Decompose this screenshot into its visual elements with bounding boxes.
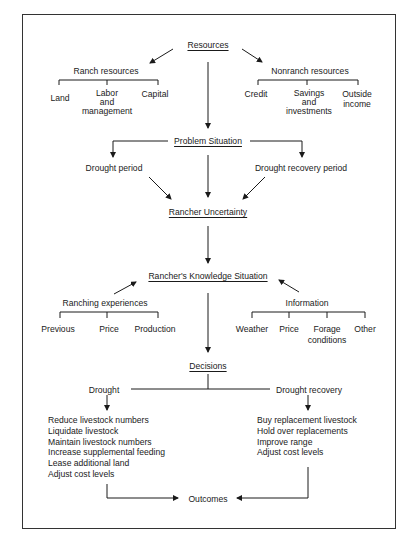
drought-action: Lease additional land	[48, 458, 165, 469]
node-resources: Resources	[187, 40, 228, 50]
recovery-action: Buy replacement livestock	[257, 415, 357, 426]
arrow-to-nonranch-resources	[242, 49, 262, 62]
recovery-action: Improve range	[257, 437, 357, 448]
nonranch-item-savings: Savings and investments	[286, 89, 332, 115]
info-item-price: Price	[279, 324, 299, 334]
node-knowledge-situation: Rancher's Knowledge Situation	[148, 271, 267, 281]
drought-action-list: Reduce livestock numbers Liquidate lives…	[48, 415, 165, 480]
node-rancher-uncertainty: Rancher Uncertainty	[169, 207, 247, 217]
info-item-weather: Weather	[236, 324, 268, 334]
nonranch-item-credit: Credit	[245, 89, 268, 99]
drought-action: Adjust cost levels	[48, 469, 165, 480]
info-item-other: Other	[354, 324, 376, 334]
arrow-to-ranch-resources	[150, 49, 173, 63]
ranch-item-capital: Capital	[142, 89, 169, 99]
drought-action: Increase supplemental feeding	[48, 447, 165, 458]
info-item-forage-conditions: Forage conditions	[308, 324, 347, 345]
node-drought-recovery-period: Drought recovery period	[255, 163, 347, 173]
node-ranching-experiences: Ranching experiences	[62, 298, 147, 308]
recovery-action-list: Buy replacement livestock Hold over repl…	[257, 415, 357, 458]
drought-action: Reduce livestock numbers	[48, 415, 165, 426]
recovery-action: Hold over replacements	[257, 426, 357, 437]
experience-item-previous: Previous	[41, 324, 74, 334]
experience-item-price: Price	[99, 324, 119, 334]
nonranch-item-outside-income: Outside income	[342, 89, 372, 109]
drought-action: Maintain livestock numbers	[48, 437, 165, 448]
node-nonranch-resources: Nonranch resources	[271, 66, 348, 76]
node-drought: Drought	[89, 385, 120, 395]
node-decisions: Decisions	[189, 361, 226, 371]
diagram-canvas: Resources Ranch resources Land Labor and…	[0, 0, 410, 549]
node-information: Information	[286, 298, 329, 308]
ranch-item-land: Land	[50, 93, 69, 103]
drought-action: Liquidate livestock	[48, 426, 165, 437]
experience-item-production: Production	[134, 324, 175, 334]
node-drought-period: Drought period	[86, 163, 143, 173]
node-problem-situation: Problem Situation	[174, 136, 242, 146]
node-drought-recovery: Drought recovery	[276, 385, 342, 395]
recovery-action: Adjust cost levels	[257, 447, 357, 458]
ranch-item-labor: Labor and management	[82, 89, 132, 115]
node-outcomes: Outcomes	[188, 494, 227, 504]
node-ranch-resources: Ranch resources	[74, 66, 139, 76]
